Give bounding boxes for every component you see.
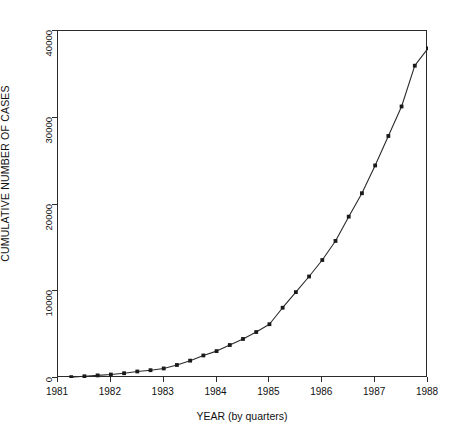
data-point-marker [228, 343, 232, 347]
data-point-marker [294, 290, 298, 294]
data-point-marker [135, 370, 139, 374]
x-tick-label: 1984 [191, 386, 241, 397]
data-point-marker [268, 322, 272, 326]
data-point-marker [320, 258, 324, 262]
data-point-marker [175, 363, 179, 367]
data-point-marker [347, 215, 351, 219]
y-tick-label: 40000 [44, 30, 54, 82]
data-point-marker [69, 375, 73, 378]
data-point-marker [413, 64, 417, 68]
data-point-marker [188, 359, 192, 363]
data-point-marker [109, 373, 113, 377]
data-point-marker [360, 191, 364, 195]
data-point-marker [215, 349, 219, 353]
data-point-marker [241, 337, 245, 341]
data-point-marker [426, 46, 428, 50]
data-point-marker [149, 368, 153, 372]
data-point-marker [281, 306, 285, 310]
x-tick-label: 1987 [349, 386, 399, 397]
series-line [71, 48, 428, 377]
data-point-marker [162, 367, 166, 371]
x-tick-label: 1981 [32, 386, 82, 397]
series-markers [69, 46, 428, 378]
x-tick-label: 1988 [402, 386, 452, 397]
data-point-marker [373, 164, 377, 168]
x-tick-label: 1983 [138, 386, 188, 397]
y-tick-label: 30000 [44, 117, 54, 169]
data-point-marker [334, 239, 338, 243]
data-point-marker [307, 275, 311, 279]
chart-figure: CUMULATIVE NUMBER OF CASES YEAR (by quar… [0, 0, 453, 440]
data-point-marker [254, 330, 258, 334]
plot-area [57, 30, 427, 377]
data-point-marker [400, 105, 404, 109]
data-point-marker [96, 374, 100, 378]
y-tick-label: 20000 [44, 204, 54, 256]
data-point-marker [83, 374, 87, 378]
y-axis-title: CUMULATIVE NUMBER OF CASES [0, 0, 13, 347]
x-tick-label: 1982 [85, 386, 135, 397]
data-point-marker [122, 371, 126, 375]
y-tick-label: 0 [44, 377, 54, 429]
data-point-marker [201, 354, 205, 358]
x-tick-label: 1985 [243, 386, 293, 397]
data-point-marker [386, 134, 390, 138]
x-axis-title: YEAR (by quarters) [57, 409, 427, 423]
x-tick-label: 1986 [296, 386, 346, 397]
y-tick-label: 10000 [44, 290, 54, 342]
data-series-layer [58, 31, 428, 378]
